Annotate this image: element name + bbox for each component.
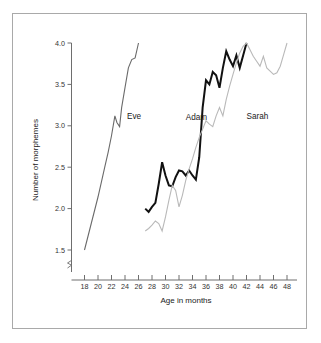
series-label-adam: Adam [186, 113, 208, 122]
x-tick-label: 42 [243, 282, 251, 291]
x-tick-label: 38 [216, 282, 224, 291]
y-axis-title: Number of morphemes [31, 119, 40, 201]
x-axis-title: Age in months [160, 296, 211, 305]
x-tick-label: 30 [162, 282, 170, 291]
y-tick-label: 3.0 [55, 121, 65, 130]
figure-root: 1.52.02.53.03.54.01820222426283032343638… [0, 0, 321, 343]
x-tick-label: 34 [189, 282, 197, 291]
x-tick-label: 44 [256, 282, 264, 291]
x-tick-label: 40 [229, 282, 237, 291]
series-line-adam [145, 43, 246, 212]
x-tick-label: 36 [202, 282, 210, 291]
series-line-sarah [145, 43, 287, 231]
series-label-eve: Eve [127, 112, 142, 121]
y-tick-label: 1.5 [55, 246, 65, 255]
x-tick-label: 28 [148, 282, 156, 291]
y-tick-label: 2.5 [55, 163, 65, 172]
y-axis-break-icon [68, 260, 72, 268]
y-tick-label: 2.0 [55, 204, 65, 213]
x-tick-label: 48 [283, 282, 291, 291]
x-tick-label: 24 [121, 282, 129, 291]
series-line-eve [85, 43, 139, 250]
x-tick-label: 22 [108, 282, 116, 291]
x-tick-label: 46 [270, 282, 278, 291]
y-tick-label: 3.5 [55, 80, 65, 89]
x-tick-label: 26 [135, 282, 143, 291]
x-tick-label: 18 [81, 282, 89, 291]
y-tick-label: 4.0 [55, 39, 65, 48]
mlu-growth-chart: 1.52.02.53.03.54.01820222426283032343638… [0, 0, 321, 343]
x-tick-label: 32 [175, 282, 183, 291]
x-tick-label: 20 [94, 282, 102, 291]
series-label-sarah: Sarah [247, 112, 269, 121]
